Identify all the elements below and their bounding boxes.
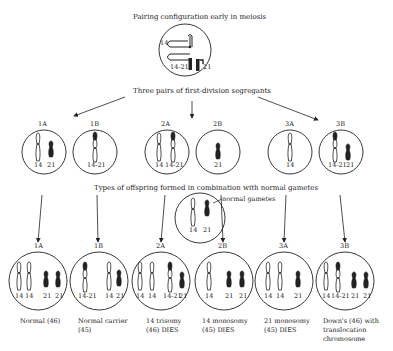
off-1b-chr-0: 14-21 [78,292,97,300]
segregant-2a-id: 2A [161,120,170,128]
off-2a-chr-3: 21 [179,292,187,300]
seg-3b-chr-1: 21 [346,161,354,169]
off-1a-chr-1: 14 [25,292,33,300]
seg-2a-chr-1: 14-21 [165,161,184,169]
segregant-2b-id: 2B [213,120,222,128]
off-2b-chr-1: 21 [225,292,233,300]
off-1a-chr-2: 21 [43,292,51,300]
offspring-2a-id: 2A [156,242,165,250]
offspring-1b [70,252,128,310]
normal-gametes-circle [175,193,225,243]
off-2b-chr-2: 21 [239,292,247,300]
seg-3a-chr-0: 14 [286,161,294,169]
seg-1b-chr-0: 14-21 [87,161,106,169]
segregants-title: Three pairs of first-division segregants [133,87,271,95]
arrow-to-3 [258,97,318,120]
seg-2a-chr-0: 14 [155,161,163,169]
off-2a-chr-0: 14 [136,292,144,300]
off-1b-chr-2: 21 [116,292,124,300]
arrow-to-1 [74,97,125,116]
off-3a-chr-2: 21 [294,292,302,300]
offspring-1a [9,252,67,310]
off-3b-chr-1: 14-21 [331,292,350,300]
off-2a-chr-1: 14 [148,292,156,300]
off-1a-chr-3: 21 [55,292,63,300]
off-3b-chr-0: 14 [322,292,330,300]
offspring-2a [132,252,190,310]
caption-2b: 14 monosomy (45) DIES [202,317,248,335]
segregant-1a-id: 1A [38,120,47,128]
offspring-2b-id: 2B [218,242,227,250]
offspring-2b [195,252,253,310]
offspring-1a-id: 1A [34,242,43,250]
off-3b-chr-2: 21 [351,292,359,300]
caption-1a: Normal (46) [20,317,60,326]
offspring-1b-id: 1B [94,242,103,250]
off-2b-chr-0: 14 [205,292,213,300]
caption-3a: 21 monosomy (45) DIES [264,317,310,335]
caption-1b: Normal carrier (45) [78,317,128,335]
off-3a-chr-1: 14 [276,292,284,300]
pairing-label-14-21: 14-21 [170,63,189,71]
offspring-3a-id: 3A [279,242,288,250]
seg-2b-chr-0: 21 [214,161,222,169]
caption-2a: 14 trisomy (46) DIES [146,317,181,335]
gamete-chr-0: 14 [189,226,197,234]
seg-1a-chr-1: 21 [47,161,55,169]
caption-3b: Down's (46) with translocation chromosom… [323,317,379,344]
off-3b-chr-3: 21 [363,292,371,300]
segregant-1b-id: 1B [90,120,99,128]
off-1a-chr-0: 14 [15,292,23,300]
offspring-title: Types of offspring formed in combination… [94,184,318,192]
gamete-chr-1: 21 [203,226,211,234]
normal-gametes-label: normal gametes [222,195,275,203]
offspring-3b-id: 3B [340,242,349,250]
segregant-3b-id: 3B [336,120,345,128]
offspring-3b [316,252,374,310]
pairing-label-14: 14 [160,39,168,47]
title: Pairing configuration early in meiosis [133,13,266,21]
pairing-label-21: 21 [203,63,211,71]
off-1b-chr-1: 14 [105,292,113,300]
seg-3b-chr-0: 14-21 [328,161,347,169]
segregant-3a-id: 3A [285,120,294,128]
offspring-3a [255,252,313,310]
segregant-1a [22,130,66,174]
seg-1a-chr-0: 14 [34,161,42,169]
off-3a-chr-0: 14 [264,292,272,300]
